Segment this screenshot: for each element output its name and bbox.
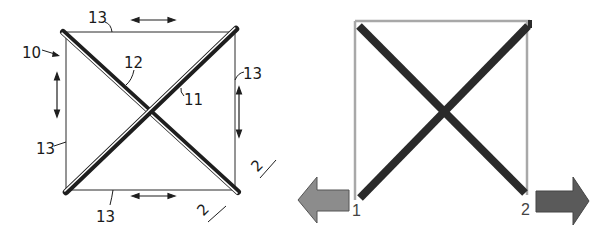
double-arrow-right-icon <box>237 87 242 137</box>
arrowhead-10-icon <box>52 51 60 57</box>
corner-cap-tr <box>528 20 532 28</box>
left-figure: 13 10 12 11 13 13 13 2 2 <box>22 9 276 226</box>
leader-12 <box>126 70 134 85</box>
node-label-1: 1 <box>352 202 361 219</box>
left-pull-arrow-icon <box>298 177 349 223</box>
right-braces <box>359 26 528 198</box>
label-12: 12 <box>124 54 143 72</box>
double-arrow-top-icon <box>132 18 175 23</box>
label-10: 10 <box>22 44 41 62</box>
node-label-2: 2 <box>521 201 530 218</box>
section-label-bottom: 2 <box>193 200 212 219</box>
leader-13-bottom <box>110 190 113 205</box>
section-label-right: 2 <box>247 156 266 175</box>
diagram-canvas: 13 10 12 11 13 13 13 2 2 1 2 <box>0 0 610 241</box>
leader-13-left <box>54 142 66 146</box>
right-pull-arrow-icon <box>536 177 589 225</box>
label-13-top: 13 <box>88 9 107 27</box>
label-11: 11 <box>184 91 203 109</box>
label-13-right: 13 <box>243 65 262 83</box>
double-arrow-left-icon <box>55 73 60 117</box>
label-13-left: 13 <box>36 140 55 158</box>
double-arrow-bottom-icon <box>132 194 175 199</box>
right-figure: 1 2 <box>298 20 589 225</box>
label-13-bottom: 13 <box>96 208 115 226</box>
